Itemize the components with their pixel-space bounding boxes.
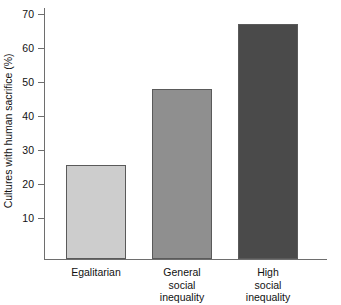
- y-tick-label: 10: [12, 213, 34, 223]
- y-tick-mark: [38, 82, 44, 83]
- y-tick-mark: [38, 184, 44, 185]
- y-tick-label: 40: [12, 111, 34, 121]
- x-category-label: High social inequality: [216, 266, 320, 304]
- bar-chart-figure: Cultures with human sacrifice (%) 102030…: [0, 0, 341, 305]
- bar-3: [238, 24, 298, 259]
- y-tick-label: 50: [12, 77, 34, 87]
- bar-2: [152, 89, 212, 259]
- x-axis-line: [44, 259, 327, 260]
- y-tick-label: 70: [12, 9, 34, 19]
- y-tick-mark: [38, 150, 44, 151]
- y-tick-mark: [38, 48, 44, 49]
- y-axis-line: [44, 8, 45, 260]
- y-tick-label: 30: [12, 145, 34, 155]
- y-tick-mark: [38, 14, 44, 15]
- y-tick-label: 60: [12, 43, 34, 53]
- bar-1: [66, 165, 126, 259]
- y-tick-mark: [38, 218, 44, 219]
- y-tick-label: 20: [12, 179, 34, 189]
- plot-area: 10203040506070 EgalitarianGeneral social…: [0, 0, 341, 305]
- y-tick-mark: [38, 116, 44, 117]
